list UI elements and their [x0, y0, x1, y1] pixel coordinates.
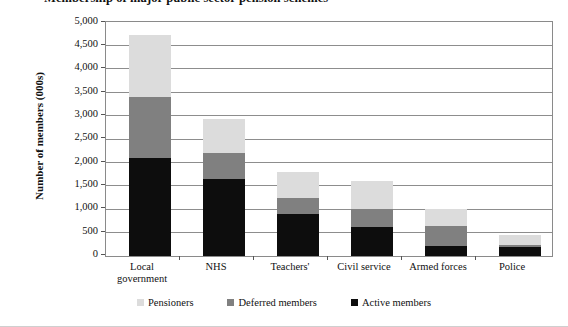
- bar-segment-pensioners: [499, 235, 541, 245]
- legend-swatch-icon: [137, 299, 144, 306]
- bar-segment-deferred: [203, 153, 245, 180]
- bar-segment-pensioners: [351, 181, 393, 209]
- x-tick-mark: [401, 256, 402, 260]
- x-tick-label-line: Civil service: [327, 261, 401, 273]
- chart-legend: Pensioners Deferred members Active membe…: [0, 297, 568, 308]
- y-tick-label: 4,500: [46, 39, 98, 50]
- x-tick-label-line: NHS: [179, 261, 253, 273]
- x-tick-label-civil-service: Civil service: [327, 261, 401, 273]
- y-tick-label: 5,000: [46, 16, 98, 27]
- gridline: [106, 68, 552, 69]
- chart-figure: Membership of major public sector pensio…: [0, 0, 568, 327]
- gridline: [106, 185, 552, 186]
- legend-label: Deferred members: [238, 297, 316, 308]
- bar-segment-active: [425, 246, 467, 256]
- x-tick-mark: [253, 256, 254, 260]
- x-tick-mark: [475, 256, 476, 260]
- gridline: [106, 115, 552, 116]
- x-tick-label-line: Police: [475, 261, 549, 273]
- x-tick-label-nhs: NHS: [179, 261, 253, 273]
- x-tick-label-police: Police: [475, 261, 549, 273]
- gridline: [106, 232, 552, 233]
- y-tick-label: 2,000: [46, 156, 98, 167]
- y-tick-label: 500: [46, 226, 98, 237]
- bar-armed-forces: [425, 209, 467, 256]
- y-axis-title: Number of members (000s): [33, 36, 45, 236]
- bar-segment-active: [351, 227, 393, 256]
- x-tick-mark: [327, 256, 328, 260]
- y-tick-label: 4,000: [46, 62, 98, 73]
- chart-title: Membership of major public sector pensio…: [44, 0, 544, 5]
- plot-area: [105, 21, 553, 257]
- x-tick-label-line: government: [105, 273, 179, 285]
- x-tick-label-line: Armed forces: [401, 261, 475, 273]
- legend-swatch-icon: [227, 299, 234, 306]
- bar-segment-deferred: [129, 97, 171, 158]
- gridline: [106, 45, 552, 46]
- legend-label: Active members: [362, 297, 431, 308]
- x-tick-label-line: Local: [105, 261, 179, 273]
- gridline: [106, 92, 552, 93]
- legend-item-deferred-members: Deferred members: [227, 297, 316, 308]
- legend-item-active-members: Active members: [351, 297, 431, 308]
- bar-segment-deferred: [499, 245, 541, 247]
- bar-segment-pensioners: [129, 35, 171, 97]
- y-tick-label: 1,500: [46, 179, 98, 190]
- gridline: [106, 162, 552, 163]
- bar-segment-deferred: [351, 209, 393, 227]
- x-tick-label-teachers: Teachers': [253, 261, 327, 273]
- x-tick-label-local-government: Local government: [105, 261, 179, 285]
- legend-label: Pensioners: [148, 297, 194, 308]
- bar-segment-pensioners: [277, 172, 319, 198]
- bar-teachers: [277, 172, 319, 256]
- y-tick-label: 3,000: [46, 109, 98, 120]
- y-tick-label: 0: [46, 249, 98, 260]
- y-tick-label: 2,500: [46, 132, 98, 143]
- bar-segment-active: [129, 158, 171, 256]
- gridline: [106, 209, 552, 210]
- y-tick-label: 3,500: [46, 86, 98, 97]
- x-tick-label-armed-forces: Armed forces: [401, 261, 475, 273]
- bar-segment-active: [203, 179, 245, 256]
- x-tick-mark: [179, 256, 180, 260]
- bar-local-government: [129, 35, 171, 256]
- bar-segment-active: [277, 214, 319, 256]
- y-tick-label: 1,000: [46, 202, 98, 213]
- bar-segment-pensioners: [203, 119, 245, 153]
- bar-segment-deferred: [425, 226, 467, 246]
- x-tick-label-line: Teachers': [253, 261, 327, 273]
- bar-police: [499, 235, 541, 256]
- bar-nhs: [203, 119, 245, 256]
- bar-segment-deferred: [277, 198, 319, 214]
- legend-swatch-icon: [351, 299, 358, 306]
- legend-item-pensioners: Pensioners: [137, 297, 194, 308]
- bar-segment-active: [499, 247, 541, 256]
- bar-segment-pensioners: [425, 209, 467, 226]
- gridline: [106, 139, 552, 140]
- bar-civil-service: [351, 181, 393, 256]
